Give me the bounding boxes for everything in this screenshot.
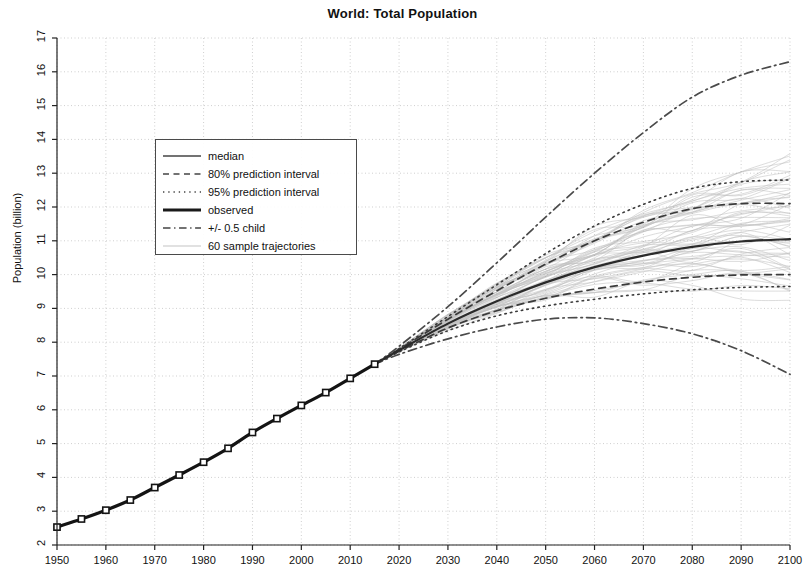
sample-trajectory: [375, 247, 790, 365]
x-tick-label: 2090: [719, 554, 763, 566]
x-tick-label: 2080: [670, 554, 714, 566]
x-tick-label: 2010: [328, 554, 372, 566]
axis-lines: [52, 38, 790, 550]
observed-marker: [274, 415, 280, 421]
y-tick-label: 5: [35, 431, 47, 453]
y-tick-label: 17: [35, 25, 47, 47]
y-tick-label: 4: [35, 464, 47, 486]
observed-marker: [103, 507, 109, 513]
observed-marker: [152, 484, 158, 490]
y-tick-label: 7: [35, 363, 47, 385]
y-tick-label: 13: [35, 160, 47, 182]
sample-trajectory: [375, 232, 790, 364]
y-tick-label: 16: [35, 59, 47, 81]
sample-trajectory: [375, 206, 790, 364]
x-tick-label: 1970: [133, 554, 177, 566]
x-tick-label: 2100: [768, 554, 805, 566]
chart-root: World: Total Population Population (bill…: [0, 0, 805, 581]
sample-trajectory: [375, 248, 790, 364]
legend-label: 95% prediction interval: [208, 186, 319, 198]
x-tick-label: 1960: [84, 554, 128, 566]
x-tick-label: 2070: [621, 554, 665, 566]
pi95-upper: [375, 180, 790, 364]
sample-trajectory: [375, 248, 790, 364]
sample-trajectory: [375, 230, 790, 364]
sample-trajectory: [375, 204, 790, 364]
observed-marker: [249, 429, 255, 435]
legend-item: median: [156, 146, 356, 165]
chart-legend: median80% prediction interval95% predict…: [155, 139, 357, 255]
sample-trajectory: [375, 204, 790, 364]
y-tick-label: 10: [35, 262, 47, 284]
legend-line-icon: [156, 164, 208, 183]
legend-item: +/- 0.5 child: [156, 218, 356, 237]
observed-marker: [372, 361, 378, 367]
observed-marker: [78, 516, 84, 522]
legend-label: 60 sample trajectories: [208, 240, 316, 252]
observed-marker: [298, 402, 304, 408]
legend-line-icon: [156, 218, 208, 237]
observed-marker: [127, 497, 133, 503]
y-tick-label: 2: [35, 532, 47, 554]
y-tick-label: 6: [35, 397, 47, 419]
x-tick-label: 2050: [524, 554, 568, 566]
observed-marker: [176, 472, 182, 478]
legend-label: observed: [208, 204, 253, 216]
legend-line-icon: [156, 200, 208, 219]
y-tick-label: 11: [35, 228, 47, 250]
legend-label: 80% prediction interval: [208, 168, 319, 180]
y-tick-label: 9: [35, 295, 47, 317]
legend-item: 60 sample trajectories: [156, 236, 356, 255]
legend-item: 80% prediction interval: [156, 164, 356, 183]
x-tick-label: 1980: [182, 554, 226, 566]
legend-item: 95% prediction interval: [156, 182, 356, 201]
legend-line-icon: [156, 146, 208, 165]
observed-line: [57, 364, 375, 527]
sample-trajectory: [375, 235, 790, 364]
observed-marker: [225, 445, 231, 451]
plot-area: [0, 0, 805, 581]
y-tick-label: 12: [35, 194, 47, 216]
x-tick-label: 2040: [475, 554, 519, 566]
y-tick-label: 14: [35, 126, 47, 148]
sample-trajectory: [375, 264, 790, 364]
sample-trajectory: [375, 188, 790, 364]
sample-trajectory: [375, 197, 790, 364]
observed-marker: [323, 389, 329, 395]
x-tick-label: 1990: [230, 554, 274, 566]
sample-trajectory: [375, 190, 790, 365]
x-tick-label: 2030: [426, 554, 470, 566]
x-tick-label: 2020: [377, 554, 421, 566]
observed-marker: [347, 375, 353, 381]
sample-trajectory: [375, 256, 790, 364]
legend-label: median: [208, 150, 244, 162]
legend-label: +/- 0.5 child: [208, 222, 265, 234]
y-tick-label: 3: [35, 498, 47, 520]
legend-item: observed: [156, 200, 356, 219]
legend-line-icon: [156, 182, 208, 201]
x-tick-label: 1950: [35, 554, 79, 566]
x-tick-label: 2000: [279, 554, 323, 566]
half-child-high: [375, 62, 790, 365]
y-tick-label: 8: [35, 329, 47, 351]
legend-line-icon: [156, 236, 208, 255]
y-tick-label: 15: [35, 93, 47, 115]
observed-marker: [201, 459, 207, 465]
x-tick-label: 2060: [573, 554, 617, 566]
sample-trajectories: [375, 154, 790, 365]
